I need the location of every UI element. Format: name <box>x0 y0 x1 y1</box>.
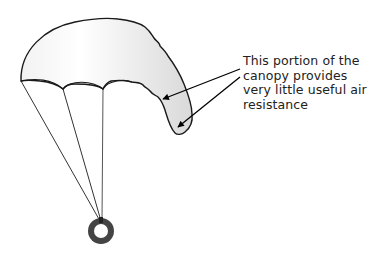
suspension-line-middle <box>63 89 101 221</box>
suspension-line-right <box>102 89 103 221</box>
annotation-line-3: very little useful air <box>243 83 367 98</box>
parachute-diagram <box>0 0 375 259</box>
suspension-line-left <box>21 81 100 221</box>
annotation-text: This portion of the canopy provides very… <box>243 54 367 112</box>
annotation-line-4: resistance <box>243 98 367 113</box>
ring <box>88 217 114 244</box>
ring-inner <box>94 224 108 238</box>
suspension-lines <box>21 81 103 221</box>
annotation-line-2: canopy provides <box>243 69 367 84</box>
ring-connector <box>99 217 103 223</box>
annotation-line-1: This portion of the <box>243 54 367 69</box>
canopy <box>21 18 192 134</box>
